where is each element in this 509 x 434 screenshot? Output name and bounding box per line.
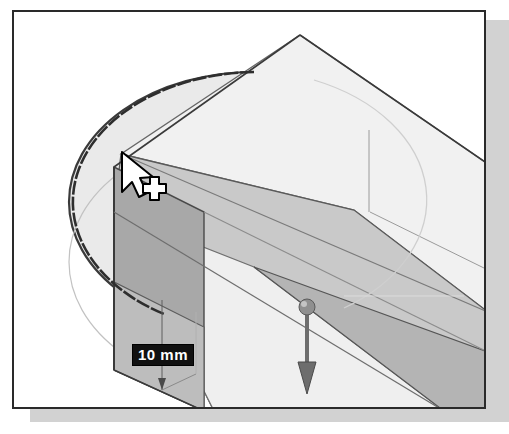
drag-arrow-sphere-grip[interactable]: [299, 299, 315, 315]
cad-viewport-frame[interactable]: 10 mm: [12, 10, 486, 409]
model-graphics: [14, 12, 484, 407]
dimension-value-box[interactable]: 10 mm: [132, 344, 194, 366]
screenshot-root: 10 mm: [0, 0, 509, 434]
cad-3d-canvas[interactable]: 10 mm: [14, 12, 484, 407]
drag-arrow-sphere-highlight: [301, 301, 307, 307]
